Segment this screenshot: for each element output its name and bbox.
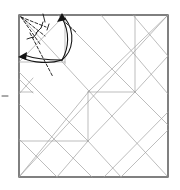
origami-diagram-page: [0, 0, 180, 190]
origami-step-diagram: [0, 0, 180, 190]
